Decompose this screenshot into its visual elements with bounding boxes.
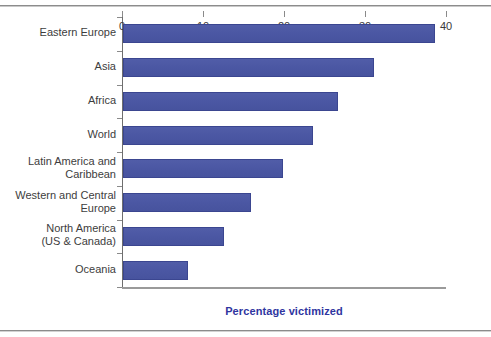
- x-axis-tick: [284, 11, 285, 17]
- bar: [123, 261, 188, 280]
- bar: [123, 92, 338, 111]
- x-axis-line: [122, 287, 446, 289]
- y-axis-tick: [117, 152, 122, 153]
- bar: [123, 126, 313, 145]
- category-label: Western and Central Europe: [15, 189, 116, 215]
- category-label: Asia: [95, 60, 116, 73]
- bar: [123, 193, 251, 212]
- bar: [123, 24, 435, 43]
- bottom-divider-rule-shadow: [0, 331, 491, 332]
- category-axis-labels: Eastern EuropeAsiaAfricaWorldLatin Ameri…: [0, 17, 116, 287]
- category-label: North America (US & Canada): [41, 222, 116, 248]
- bar: [123, 58, 374, 77]
- y-axis-tick: [117, 85, 122, 86]
- category-label: Oceania: [75, 263, 116, 276]
- category-label: Africa: [88, 94, 116, 107]
- x-axis-title: Percentage victimized: [122, 305, 446, 317]
- x-axis-tick: [446, 11, 447, 17]
- y-axis-tick: [117, 287, 122, 288]
- y-axis-tick: [117, 118, 122, 119]
- x-axis-tick: [203, 11, 204, 17]
- bar-chart-figure: Eastern EuropeAsiaAfricaWorldLatin Ameri…: [0, 0, 491, 337]
- y-axis-tick: [117, 186, 122, 187]
- x-axis-tick: [122, 11, 123, 17]
- y-axis-tick: [117, 220, 122, 221]
- y-axis-tick: [117, 253, 122, 254]
- y-axis-tick: [117, 17, 122, 18]
- y-axis-tick: [117, 51, 122, 52]
- category-label: Latin America and Caribbean: [28, 155, 116, 181]
- bar: [123, 159, 283, 178]
- plot-area: 010203040: [122, 17, 455, 287]
- top-divider-rule-shadow: [0, 6, 491, 7]
- x-axis-tick: [365, 11, 366, 17]
- bar: [123, 227, 224, 246]
- category-label: World: [87, 128, 116, 141]
